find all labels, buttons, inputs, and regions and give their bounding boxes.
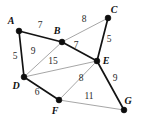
graph-vertex-c — [105, 15, 111, 21]
edge-weight-e-f: 8 — [79, 73, 84, 83]
graph-vertex-f — [56, 97, 62, 103]
edge-weight-a-d: 5 — [13, 51, 18, 61]
edge-weight-d-f: 6 — [35, 87, 40, 97]
vertex-label-a: A — [7, 15, 15, 26]
edge-weight-e-g: 9 — [113, 73, 118, 83]
nodes-layer — [16, 15, 127, 113]
graph-vertex-b — [59, 39, 65, 45]
edge-weight-a-b: 7 — [38, 20, 43, 30]
edge-weight-c-e: 5 — [107, 34, 112, 44]
edge-weight-b-e: 7 — [74, 40, 79, 50]
graph-edge-a-d — [19, 31, 24, 77]
graph-edge-e-g — [97, 61, 124, 110]
edge-weight-b-d: 9 — [31, 46, 36, 56]
edge-weight-b-c: 8 — [82, 14, 87, 24]
graph-edge-f-g — [59, 100, 124, 110]
graph-vertex-g — [121, 107, 127, 113]
vertex-label-e: E — [102, 55, 110, 66]
vertex-label-f: F — [51, 105, 59, 116]
graph-vertex-d — [21, 74, 27, 80]
vertex-label-b: B — [53, 25, 61, 36]
vertex-label-d: D — [11, 80, 19, 91]
weighted-graph-figure: ABCDEFG 7589751568911 — [0, 0, 142, 127]
graph-edge-d-e — [24, 61, 97, 77]
vertex-label-g: G — [124, 95, 132, 106]
edge-weight-f-g: 11 — [84, 91, 93, 101]
graph-canvas: ABCDEFG 7589751568911 — [0, 0, 142, 127]
graph-edge-b-e — [62, 42, 97, 61]
vertex-label-c: C — [111, 4, 118, 15]
graph-vertex-e — [94, 58, 100, 64]
node-labels-layer: ABCDEFG — [7, 4, 133, 116]
edge-weight-d-e: 15 — [48, 56, 58, 66]
graph-edge-d-f — [24, 77, 59, 100]
graph-vertex-a — [16, 28, 22, 34]
